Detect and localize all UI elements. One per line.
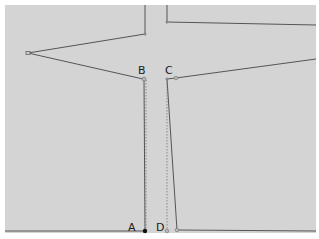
node-top-left[interactable]	[144, 33, 147, 36]
label-B: B	[138, 64, 146, 77]
node-left-tip[interactable]	[26, 52, 30, 55]
node-A[interactable]	[143, 229, 147, 233]
node-B[interactable]	[142, 77, 146, 81]
diagram-canvas: B C A D	[0, 0, 319, 239]
node-top-right[interactable]	[166, 21, 169, 24]
node-bottom-right[interactable]	[175, 228, 179, 232]
node-D[interactable]	[165, 229, 169, 233]
node-C[interactable]	[166, 78, 169, 81]
drafting-area	[5, 5, 316, 233]
label-A: A	[128, 221, 136, 234]
node-C-offset[interactable]	[174, 76, 178, 80]
label-C: C	[165, 64, 173, 77]
label-D: D	[156, 221, 164, 234]
